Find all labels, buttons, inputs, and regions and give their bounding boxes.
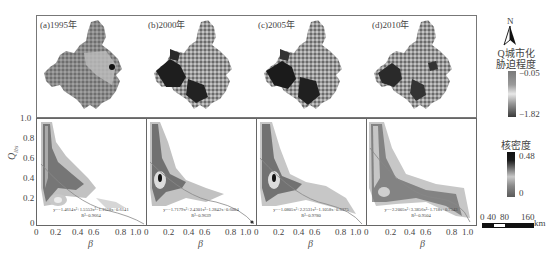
x-tick-p2-0.8: 0.8 — [225, 227, 236, 237]
x-tick-p3-1.0: 1.0 — [350, 227, 361, 237]
legend-kd-min: 0 — [519, 188, 524, 198]
x-tick-p1-0.8: 0.8 — [115, 227, 126, 237]
x-tick-p3-0.2: 0.2 — [273, 227, 284, 237]
legend-kd-title: 核密度 — [486, 140, 546, 151]
legend-kd-max: 0.48 — [519, 151, 535, 161]
y-tick-1.0: 1.0 — [20, 113, 31, 123]
panel-2000-r2: R²=0.9639 — [148, 213, 254, 218]
legend-q-min: −1.82 — [519, 109, 540, 119]
x-tick-p1-0: 0 — [34, 227, 39, 237]
legend-q-colorbar — [508, 71, 516, 117]
y-tick-0.6: 0.6 — [23, 153, 34, 163]
x-tick-p4-0.4: 0.4 — [404, 227, 415, 237]
panel-1995-equation: y=−1.4614x³+1.5553x²−1.1528x+0.6141 — [38, 207, 144, 212]
x-tick-p3-0.4: 0.4 — [293, 227, 304, 237]
legend-q-max: −0.05 — [519, 68, 540, 78]
map-label-1995: (a)1995年 — [40, 18, 77, 31]
panel-1995-r2: R²=0.9664 — [38, 213, 144, 218]
scale-tick-160: 160 — [521, 212, 535, 222]
x-tick-p1-0.2: 0.2 — [50, 227, 61, 237]
x-tick-p4-0.2: 0.2 — [385, 227, 396, 237]
scale-unit: km — [534, 218, 546, 228]
x-tick-p1-0.4: 0.4 — [72, 227, 83, 237]
panel-2005-r2: R²=0.9780 — [258, 213, 364, 218]
y-axis-label-sub: ibs — [13, 146, 19, 153]
x-axis-label-p3: β — [308, 238, 313, 249]
panel-2010-equation: y=−2.2005x³+3.3856x²−1.718x+0.7543 — [368, 207, 474, 212]
maps-layer — [36, 15, 477, 118]
x-tick-p3-0.6: 0.6 — [309, 227, 320, 237]
y-tick-0.4: 0.4 — [23, 173, 34, 183]
x-axis-label-p2: β — [198, 238, 203, 249]
x-tick-p2-0: 0 — [144, 227, 149, 237]
x-axis-label-p1: β — [88, 238, 93, 249]
legend-q-title: Q城市化 胁迫程度 — [484, 48, 548, 70]
map-label-2005: (c)2005年 — [258, 18, 295, 31]
x-tick-p4-0: 0 — [364, 227, 369, 237]
x-tick-p2-1.0: 1.0 — [240, 227, 251, 237]
scale-tick-0: 0 — [480, 212, 485, 222]
scale-bar — [482, 223, 534, 228]
x-tick-p4-0.8: 0.8 — [446, 227, 457, 237]
north-label: N — [507, 16, 514, 26]
map-label-2000: (b)2000年 — [148, 18, 186, 31]
map-2000 — [154, 20, 232, 109]
scale-tick-80: 80 — [500, 212, 509, 222]
map-label-2010: (d)2010年 — [372, 18, 410, 31]
x-tick-p3-0: 0 — [254, 227, 259, 237]
north-arrow-icon — [503, 26, 517, 46]
x-tick-p2-0.4: 0.4 — [183, 227, 194, 237]
x-tick-p2-0.6: 0.6 — [199, 227, 210, 237]
panel-2010-r2: R²=0.9504 — [368, 213, 474, 218]
x-axis-label-p4: β — [420, 238, 425, 249]
x-tick-p1-0.6: 0.6 — [88, 227, 99, 237]
x-tick-p1-1.0: 1.0 — [130, 227, 141, 237]
panel-2000-equation: y=−1.7179x³+2.4301x²−1.2842x+0.6004 — [148, 207, 254, 212]
map-1995 — [44, 20, 122, 109]
map-2005 — [264, 20, 342, 109]
x-tick-p2-0.2: 0.2 — [163, 227, 174, 237]
y-tick-0.8: 0.8 — [23, 133, 34, 143]
legend-kd-colorbar — [507, 152, 515, 197]
x-tick-p3-0.8: 0.8 — [335, 227, 346, 237]
y-tick-0.2: 0.2 — [23, 193, 34, 203]
scale-tick-40: 40 — [487, 212, 496, 222]
y-axis-label: Qibs — [6, 146, 19, 160]
x-tick-p4-1.0: 1.0 — [462, 227, 473, 237]
panel-2005-equation: y=−1.0805x³+2.2531x²−1.1058x+0.6375 — [258, 207, 364, 212]
y-axis-label-main: Q — [6, 153, 17, 160]
x-tick-p4-0.6: 0.6 — [420, 227, 431, 237]
map-2010 — [374, 20, 452, 109]
legend-q-title-line1: Q城市化 — [484, 48, 548, 59]
